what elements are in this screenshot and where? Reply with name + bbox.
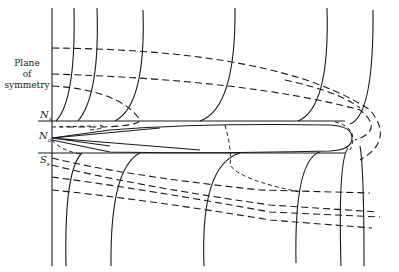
plane-label-line3: symmetry <box>2 80 52 91</box>
upper-dashed-contours <box>52 48 380 160</box>
na-sub: a <box>48 136 52 143</box>
plane-of-symmetry-label: Plane of symmetry <box>2 58 52 91</box>
na-label: Na <box>39 131 51 145</box>
ns-main: N <box>40 109 49 120</box>
plane-label-line2: of <box>2 69 52 80</box>
lower-field-lines <box>66 146 364 266</box>
lower-dashed-contours <box>52 125 380 228</box>
ss-label: Ss <box>40 155 50 169</box>
ss-sub: s <box>47 160 50 167</box>
upper-field-lines <box>56 8 373 124</box>
inner-wedge <box>52 128 200 150</box>
field-diagram <box>0 0 399 272</box>
ns-label: Ns <box>40 110 52 124</box>
ns-sub: s <box>49 115 52 122</box>
ss-main: S <box>40 154 47 165</box>
na-main: N <box>39 130 48 141</box>
plane-label-line1: Plane <box>2 58 52 69</box>
